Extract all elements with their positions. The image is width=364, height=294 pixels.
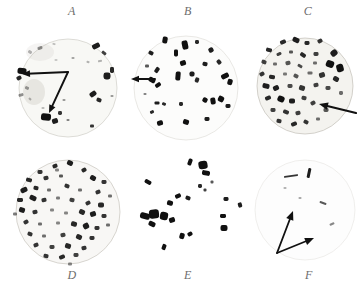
panel-label-f: F	[297, 268, 321, 283]
panel-f-micrograph	[0, 0, 364, 294]
figure-plate: A B C D E F	[0, 0, 364, 294]
